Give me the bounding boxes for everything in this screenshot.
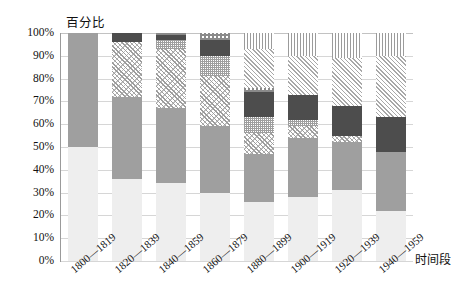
y-axis-tick-label: 20% [4, 209, 54, 221]
y-axis-tick-label: 60% [4, 118, 54, 130]
bar-segment [112, 97, 142, 179]
bar-stack [332, 33, 362, 261]
bar-segment [244, 117, 274, 133]
bar-segment [332, 33, 362, 58]
bar-segment [288, 126, 318, 137]
bar-segment [332, 58, 362, 106]
bar-stack [112, 33, 142, 261]
bar-segment [288, 33, 318, 56]
bar-segment [244, 33, 274, 49]
bar-stack [156, 33, 186, 261]
bar-segment [332, 106, 362, 136]
bar-stack [376, 33, 406, 261]
bar-segment [68, 33, 98, 147]
y-axis-tick-label: 100% [4, 27, 54, 39]
y-axis-tick-label: 50% [4, 141, 54, 153]
bar-segment [244, 88, 274, 93]
bar-segment [244, 133, 274, 154]
bar-segment [244, 49, 274, 88]
bar-segment [244, 154, 274, 202]
y-axis-tick-label: 40% [4, 164, 54, 176]
y-axis-tick-label: 80% [4, 73, 54, 85]
bar-segment [156, 40, 186, 49]
bar-segment [288, 138, 318, 197]
y-axis-tick-label: 0% [4, 255, 54, 267]
bar-segment [112, 42, 142, 97]
bar-segment [156, 33, 186, 35]
bar-segment [156, 108, 186, 183]
bar-segment [112, 33, 142, 42]
bar-segment [200, 33, 230, 40]
bar-segment [200, 126, 230, 192]
bar-segment [376, 33, 406, 56]
y-axis-tick-label: 90% [4, 50, 54, 62]
y-axis-tick-label: 30% [4, 187, 54, 199]
y-axis-tick-label: 10% [4, 232, 54, 244]
bar-segment [376, 152, 406, 211]
bar-segment [288, 56, 318, 95]
bar-segment [156, 49, 186, 108]
stacked-bar-chart: 百分比 时间段 100%90%80%70%60%50%40%30%20%10%0… [0, 0, 459, 302]
bar-segment [288, 120, 318, 127]
y-axis-tick-label: 70% [4, 95, 54, 107]
bar-segment [200, 40, 230, 56]
bar-segment [244, 92, 274, 117]
bar-segment [200, 56, 230, 77]
bar-stack [288, 33, 318, 261]
gridline [61, 261, 413, 262]
bar-segment [288, 95, 318, 120]
bar-stack [200, 33, 230, 261]
bar-segment [332, 136, 362, 143]
cropped-footer-text [0, 288, 459, 302]
bar-segment [200, 76, 230, 126]
bar-stack [244, 33, 274, 261]
bar-segment [376, 56, 406, 118]
bar-segment [376, 117, 406, 151]
plot-area [60, 33, 413, 262]
bar-stack [68, 33, 98, 261]
bar-segment [156, 35, 186, 40]
bar-segment [332, 142, 362, 190]
